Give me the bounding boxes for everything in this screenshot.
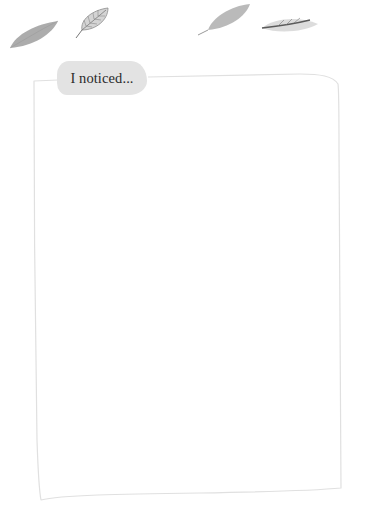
prompt-label-text: I noticed... [70, 70, 133, 87]
writing-area[interactable] [40, 88, 340, 488]
